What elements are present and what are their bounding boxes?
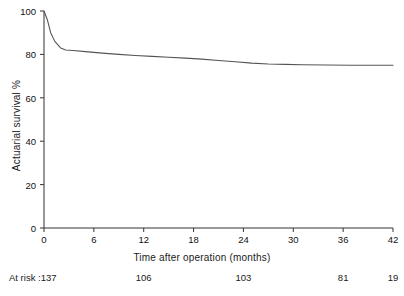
survival-curve [44,11,393,65]
x-tick-label: 12 [138,234,149,245]
y-axis-title: Actuarial survival % [11,61,22,191]
axes [44,11,393,228]
survival-chart-figure: 020406080100 06121824303642 Actuarial su… [0,0,404,296]
at-risk-value: 19 [388,272,399,283]
x-tick-label: 6 [91,234,96,245]
at-risk-label: At risk :137 [9,272,57,283]
x-axis-ticks [44,228,393,232]
at-risk-row: At risk :137 1061038119 [0,272,404,288]
y-tick-label: 100 [0,6,36,17]
x-tick-label: 36 [338,234,349,245]
y-tick-label: 80 [0,49,36,60]
x-tick-label: 0 [41,234,46,245]
y-tick-label: 0 [0,223,36,234]
x-tick-label: 24 [238,234,249,245]
x-tick-label: 42 [388,234,399,245]
at-risk-value: 81 [338,272,349,283]
x-tick-label: 30 [288,234,299,245]
at-risk-value: 103 [235,272,251,283]
x-tick-label: 18 [188,234,199,245]
y-axis-ticks [40,11,44,228]
x-axis-title: Time after operation (months) [0,252,404,263]
at-risk-value: 106 [136,272,152,283]
